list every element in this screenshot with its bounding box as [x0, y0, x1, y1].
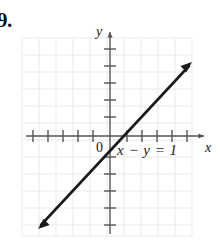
- y-axis: [107, 32, 112, 234]
- y-axis-label: y: [94, 24, 103, 39]
- origin-label: 0: [96, 140, 103, 155]
- x-axis: [26, 133, 204, 138]
- x-axis-label: x: [204, 140, 212, 155]
- equation-label: x − y = 1: [117, 142, 178, 159]
- figure-container: 9.: [0, 0, 220, 242]
- coordinate-graph: y x 0: [0, 0, 220, 242]
